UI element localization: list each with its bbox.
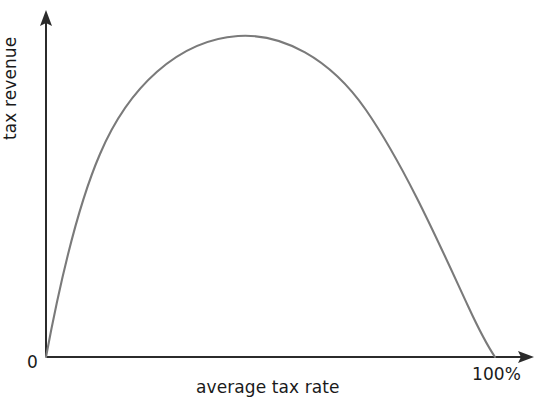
origin-tick-label: 0	[27, 352, 38, 372]
y-axis-title: tax revenue	[0, 10, 22, 140]
laffer-curve-figure: (figure 1) tax revenue 0 average tax rat…	[0, 0, 539, 417]
x-axis-max-tick-label: 100%	[472, 364, 521, 384]
chart-canvas	[0, 0, 539, 417]
axes-group	[40, 10, 534, 363]
laffer-curve-path	[46, 36, 495, 357]
x-axis-title: average tax rate	[196, 377, 340, 397]
